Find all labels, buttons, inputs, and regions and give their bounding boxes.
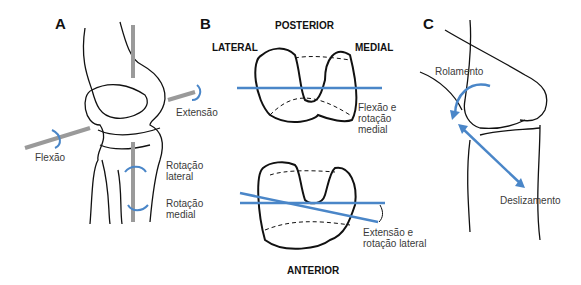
panel-b-rotation-arrow <box>379 205 383 222</box>
panel-a-knee-drawing <box>83 22 165 224</box>
rolling-arrow <box>455 85 490 115</box>
label-medial: MEDIAL <box>355 42 393 53</box>
label-extension: Extensão <box>176 107 218 118</box>
label-posterior: POSTERIOR <box>275 20 334 31</box>
label-lateral-rotation: Rotação lateral <box>166 160 203 182</box>
knee-diagram <box>0 0 581 285</box>
gliding-arrow <box>462 128 522 185</box>
label-extension-lateral-rotation: Extensão e rotação lateral <box>363 227 426 249</box>
panel-a-rods <box>25 25 195 222</box>
panel-a-letter: A <box>55 15 66 32</box>
label-gliding: Deslizamento <box>500 195 561 206</box>
panel-c-letter: C <box>423 15 434 32</box>
label-medial-rotation: Rotação medial <box>166 198 203 220</box>
label-flexion-medial-rotation: Flexão e rotação medial <box>358 102 396 135</box>
panel-c-knee-drawing <box>420 20 547 240</box>
panel-b-top-plateau <box>255 49 356 122</box>
panel-b-top-dashed <box>270 57 350 115</box>
label-anterior: ANTERIOR <box>287 265 339 276</box>
panel-a-rotation-arrows <box>52 85 200 210</box>
panel-b-letter: B <box>200 15 211 32</box>
panel-b-bottom-plateau <box>258 162 355 249</box>
label-rolling: Rolamento <box>435 66 483 77</box>
label-flexion: Flexão <box>35 152 65 163</box>
label-lateral: LATERAL <box>212 42 258 53</box>
